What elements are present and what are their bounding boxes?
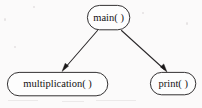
node-main[interactable]: main( ) <box>87 5 129 29</box>
arrowhead-print <box>160 64 167 72</box>
node-main-label: main( ) <box>93 12 124 24</box>
node-print-label: print( ) <box>158 78 188 90</box>
node-print[interactable]: print( ) <box>150 72 195 94</box>
call-graph-figure: main( ) multiplication( ) print( ) <box>0 0 202 108</box>
node-multiplication-label: multiplication( ) <box>23 78 92 90</box>
edge-main-to-print <box>122 31 168 73</box>
graph-canvas: main( ) multiplication( ) print( ) <box>0 0 202 108</box>
node-multiplication[interactable]: multiplication( ) <box>7 72 107 95</box>
edge-line-main-print <box>122 31 165 70</box>
edge-line-main-multiplication <box>65 31 98 69</box>
edge-main-to-multiplication <box>62 31 98 72</box>
